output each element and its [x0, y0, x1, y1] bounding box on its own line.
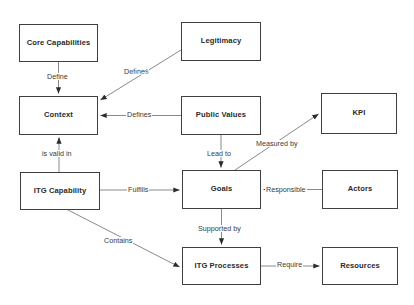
node-itg-capability[interactable]: ITG Capability	[20, 172, 100, 210]
node-context[interactable]: Context	[19, 96, 98, 135]
node-label-goals: Goals	[211, 185, 233, 193]
node-kpi[interactable]: KPI	[321, 93, 397, 134]
node-label-actors: Actors	[348, 185, 373, 193]
node-actors[interactable]: Actors	[322, 170, 398, 209]
node-label-public-values: Public Values	[196, 111, 246, 119]
edge-label-defines-legitimacy: Defines	[123, 68, 149, 76]
node-label-context: Context	[44, 111, 73, 119]
node-label-kpi: KPI	[353, 109, 366, 117]
node-label-itg-processes: ITG Processes	[194, 262, 248, 270]
node-label-resources: Resources	[340, 262, 380, 270]
node-public-values[interactable]: Public Values	[181, 96, 261, 135]
edge-label-supported-by: Supported by	[197, 225, 242, 232]
node-core-capabilities[interactable]: Core Capabilities	[19, 24, 98, 62]
edge-label-contains: Contains	[103, 237, 133, 244]
edge-label-measured-by: Measured by	[255, 140, 299, 147]
edge-label-define: Define	[46, 73, 69, 80]
edge-label-is-valid-in: is valid in	[41, 150, 73, 157]
node-label-itg-capability: ITG Capability	[34, 187, 86, 195]
node-label-core-capabilities: Core Capabilities	[27, 39, 91, 47]
edge-label-fulfills: Fulfills	[127, 186, 149, 193]
edge-label-defines-public-values: Defines	[126, 111, 152, 118]
node-legitimacy[interactable]: Legitimacy	[181, 22, 261, 61]
node-goals[interactable]: Goals	[182, 170, 261, 209]
node-label-legitimacy: Legitimacy	[201, 37, 242, 45]
edge-label-require: Require	[276, 261, 303, 268]
edge-label-responsible: Responsible	[265, 186, 307, 193]
node-itg-processes[interactable]: ITG Processes	[182, 247, 261, 285]
concept-diagram: Core Capabilities Legitimacy Context Pub…	[0, 0, 414, 305]
node-resources[interactable]: Resources	[322, 247, 398, 285]
edge-label-lead-to: Lead to	[206, 150, 232, 157]
